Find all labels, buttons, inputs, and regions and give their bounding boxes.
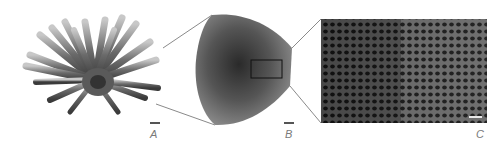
figure: A B C bbox=[0, 0, 498, 148]
panel-label-c: C bbox=[476, 128, 484, 140]
connector-line bbox=[290, 86, 321, 123]
panel-label-b: B bbox=[285, 128, 292, 140]
connector-line bbox=[290, 19, 321, 50]
scalebar-a bbox=[150, 122, 160, 124]
panel-c-image bbox=[321, 19, 487, 123]
panel-a-image bbox=[26, 18, 158, 118]
panel-b-image bbox=[196, 14, 292, 125]
scalebar-b bbox=[284, 122, 294, 124]
scalebar-c bbox=[469, 116, 482, 118]
panel-label-a: A bbox=[150, 128, 157, 140]
figure-graphics bbox=[0, 0, 498, 148]
